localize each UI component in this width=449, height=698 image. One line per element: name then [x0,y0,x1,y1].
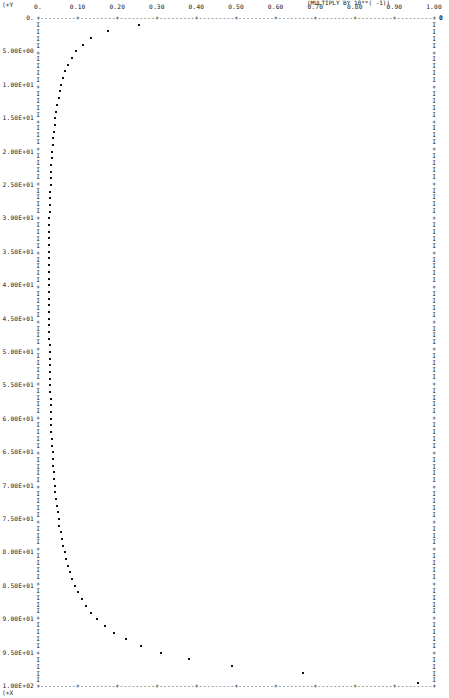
data-point [104,625,106,627]
y-tick-label: 4.50E+01 [0,316,34,322]
data-point [58,518,60,520]
data-point [64,551,66,553]
y-tick-label: 4.00E+01 [0,282,34,288]
data-point [69,571,71,573]
x-tick-label: 0.60 [268,4,284,10]
data-point [54,124,56,126]
data-point [53,471,55,473]
data-point [231,665,233,667]
data-point [61,538,63,540]
data-point [53,131,55,133]
data-point [52,144,54,146]
data-point [74,585,76,587]
data-point [50,418,52,420]
data-point [54,485,56,487]
data-point [52,465,54,467]
plot-canvas [0,0,449,698]
y-tick-label: 3.00E+01 [0,215,34,221]
x-tick-label: 0.50 [228,4,244,10]
data-point [50,424,52,426]
data-point [50,411,52,413]
y-tick-label: 5.00E+00 [0,48,34,54]
data-point [48,251,50,253]
data-point [48,318,50,320]
data-point [52,137,54,139]
data-point [50,164,52,166]
x-tick-label: 0.30 [149,4,165,10]
border-vertical-glyph: I [430,677,438,684]
data-point [48,338,50,340]
data-point [57,511,59,513]
y-axis-corner-marker: (+Y [2,2,13,8]
y-tick-label: 3.50E+01 [0,249,34,255]
data-point [96,618,98,620]
data-point [50,404,52,406]
axis-end-marker: 0 [439,15,443,21]
data-point [48,331,50,333]
data-point [52,458,54,460]
data-point [56,505,58,507]
data-point [48,278,50,280]
data-point [54,491,56,493]
y-tick-label: 0. [0,15,34,21]
data-point [48,231,50,233]
data-point [48,224,50,226]
data-point [49,371,51,373]
data-point [417,682,419,684]
data-point [75,50,77,52]
data-point [48,304,50,306]
x-tick-label: 0.70 [307,4,323,10]
y-tick-label: 9.00E+01 [0,616,34,622]
x-tick-label: 1.00 [426,4,442,10]
data-point [67,64,69,66]
data-point [71,578,73,580]
y-tick-label: 5.50E+01 [0,382,34,388]
x-tick-label: 0.80 [347,4,363,10]
data-point [62,545,64,547]
data-point [56,104,58,106]
data-point [49,378,51,380]
data-point [52,451,54,453]
data-point [107,30,109,32]
data-point [49,358,51,360]
data-point [82,44,84,46]
y-tick-label: 5.00E+01 [0,349,34,355]
data-point [48,217,50,219]
data-point [49,364,51,366]
data-point [77,591,79,593]
data-point [48,311,50,313]
data-point [90,37,92,39]
data-point [59,90,61,92]
data-point [51,445,53,447]
data-point [90,612,92,614]
data-point [71,57,73,59]
data-point [138,24,140,26]
data-point [85,605,87,607]
y-tick-label: 2.00E+01 [0,149,34,155]
data-point [55,498,57,500]
data-point [49,384,51,386]
x-tick-label: 0.10 [70,4,86,10]
y-tick-label: 6.50E+01 [0,449,34,455]
data-point [65,558,67,560]
data-point [48,271,50,273]
y-tick-label: 6.00E+01 [0,416,34,422]
data-point [50,171,52,173]
y-tick-label: 9.50E+01 [0,650,34,656]
data-point [62,77,64,79]
data-point [58,97,60,99]
data-point [60,84,62,86]
border-vertical-glyph: I [34,677,42,684]
data-point [49,204,51,206]
data-point [49,344,51,346]
data-point [140,645,142,647]
data-point [55,111,57,113]
y-tick-label: 7.00E+01 [0,483,34,489]
data-point [50,398,52,400]
data-point [49,197,51,199]
data-point [49,211,51,213]
data-point [48,244,50,246]
data-point [48,284,50,286]
y-tick-label: 7.50E+01 [0,516,34,522]
data-point [51,157,53,159]
